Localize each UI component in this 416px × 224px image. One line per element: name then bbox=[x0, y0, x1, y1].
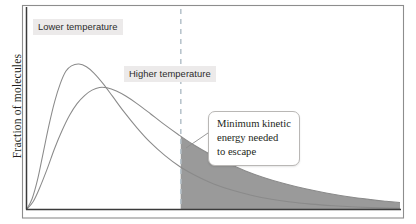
label-lower-temperature: Lower temperature bbox=[33, 19, 123, 35]
callout-leader-line bbox=[186, 133, 208, 148]
label-higher-temperature: Higher temperature bbox=[124, 66, 216, 82]
maxwell-boltzmann-distribution-figure: Fraction of molecules Lower temperature … bbox=[0, 0, 416, 224]
callout-line-1: Minimum kinetic bbox=[217, 117, 292, 131]
callout-minimum-kinetic-energy: Minimum kinetic energy needed to escape bbox=[208, 111, 300, 166]
callout-line-3: to escape bbox=[217, 145, 292, 159]
callout-line-2: energy needed bbox=[217, 131, 292, 145]
y-axis-title: Fraction of molecules bbox=[11, 31, 23, 181]
